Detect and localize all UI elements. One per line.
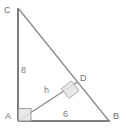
vertex-label-D: D — [80, 74, 87, 83]
right-angle-marker-D — [61, 81, 79, 99]
measure-label-horizontal-leg: 6 — [63, 110, 68, 119]
vertex-label-C: C — [4, 6, 11, 15]
measure-label-altitude: h — [44, 86, 49, 95]
right-angle-marker-A — [19, 109, 32, 122]
vertex-label-A: A — [5, 112, 11, 121]
vertex-label-B: B — [113, 112, 119, 121]
geometry-figure: C A B D 8 6 h — [0, 0, 126, 129]
measure-label-vertical-leg: 8 — [21, 66, 26, 75]
segment-hypotenuse-CB — [18, 8, 109, 121]
